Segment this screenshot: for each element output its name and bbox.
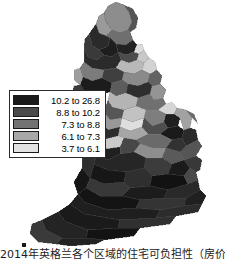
legend-row: 8.8 to 10.2 <box>13 106 102 118</box>
legend-label: 10.2 to 26.8 <box>39 95 102 106</box>
legend-label: 6.1 to 7.3 <box>39 131 102 142</box>
choropleth-figure: 10.2 to 26.8 8.8 to 10.2 7.3 to 8.8 6.1 … <box>0 0 225 260</box>
legend-row: 6.1 to 7.3 <box>13 130 102 142</box>
legend-swatch-class-1 <box>13 143 39 153</box>
legend-row: 3.7 to 6.1 <box>13 142 102 154</box>
legend-swatch-class-4 <box>13 107 39 117</box>
legend-row: 10.2 to 26.8 <box>13 94 102 106</box>
legend-label: 3.7 to 6.1 <box>39 143 102 154</box>
legend-swatch-class-5 <box>13 95 39 105</box>
map-legend: 10.2 to 26.8 8.8 to 10.2 7.3 to 8.8 6.1 … <box>9 90 106 158</box>
map-region-group-midlands <box>96 92 186 164</box>
legend-label: 7.3 to 8.8 <box>39 119 102 130</box>
figure-caption-text: 2014年英格兰各个区域的住宅可负担性（房价 <box>0 248 225 260</box>
legend-label: 8.8 to 10.2 <box>39 107 102 118</box>
legend-swatch-class-3 <box>13 119 39 129</box>
figure-caption: 2014年英格兰各个区域的住宅可负担性（房价 <box>0 247 225 260</box>
legend-row: 7.3 to 8.8 <box>13 118 102 130</box>
legend-swatch-class-2 <box>13 131 39 141</box>
